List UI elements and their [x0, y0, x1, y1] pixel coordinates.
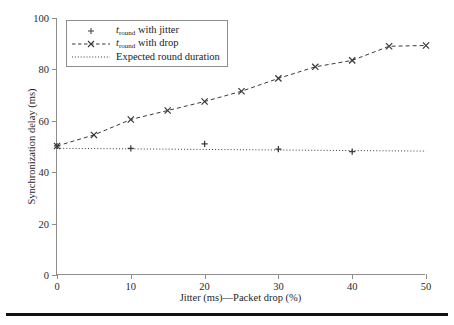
- legend-marker-plus-icon: [71, 25, 111, 37]
- data-point-marker: [128, 116, 134, 122]
- x-axis-tick-label: 10: [126, 281, 137, 292]
- legend-marker-dotted-icon: [71, 51, 111, 63]
- legend-label-drop: tround with drop: [116, 37, 178, 50]
- x-axis-tick: [57, 274, 58, 279]
- x-axis-tick-label: 0: [54, 281, 59, 292]
- legend: tround with jitter tround with drop Expe…: [66, 20, 228, 67]
- legend-item-expected: Expected round duration: [71, 50, 220, 63]
- y-axis-tick-label: 0: [44, 270, 49, 281]
- x-axis-tick-label: 20: [199, 281, 210, 292]
- series-1: [54, 141, 355, 155]
- x-axis-tick-label: 50: [421, 281, 432, 292]
- series-line: [57, 148, 426, 151]
- data-point-marker: [312, 64, 318, 70]
- data-point-marker: [238, 88, 244, 94]
- data-point-marker: [386, 43, 392, 49]
- data-point-marker: [202, 98, 208, 104]
- x-axis-tick: [426, 274, 427, 279]
- y-axis-title: Synchronization delay (ms): [26, 18, 44, 275]
- data-point-marker: [349, 149, 355, 155]
- data-point-marker: [423, 42, 429, 48]
- legend-item-jitter: tround with jitter: [71, 24, 220, 37]
- data-point-marker: [128, 145, 134, 151]
- data-point-marker: [275, 75, 281, 81]
- y-axis-tick: [52, 69, 57, 70]
- x-axis-tick: [352, 274, 353, 279]
- data-point-marker: [202, 141, 208, 147]
- y-axis-tick: [52, 121, 57, 122]
- x-axis-title: Jitter (ms)—Packet drop (%): [56, 292, 425, 303]
- y-axis-tick: [52, 224, 57, 225]
- legend-marker-x-dashed-icon: [71, 38, 111, 50]
- footer-rule: [6, 313, 448, 316]
- x-axis-tick: [131, 274, 132, 279]
- data-point-marker: [165, 107, 171, 113]
- x-axis-tick-label: 30: [273, 281, 284, 292]
- data-point-marker: [349, 57, 355, 63]
- figure-chart: 02040608010001020304050 Synchronization …: [0, 0, 454, 325]
- y-axis-tick: [52, 18, 57, 19]
- legend-item-drop: tround with drop: [71, 37, 220, 50]
- x-axis-tick-label: 40: [347, 281, 358, 292]
- data-point-marker: [275, 146, 281, 152]
- x-axis-tick: [205, 274, 206, 279]
- legend-label-expected: Expected round duration: [116, 51, 220, 63]
- y-axis-tick: [52, 172, 57, 173]
- legend-label-jitter: tround with jitter: [116, 24, 179, 37]
- data-point-marker: [91, 132, 97, 138]
- x-axis-tick: [278, 274, 279, 279]
- series-3: [57, 148, 426, 151]
